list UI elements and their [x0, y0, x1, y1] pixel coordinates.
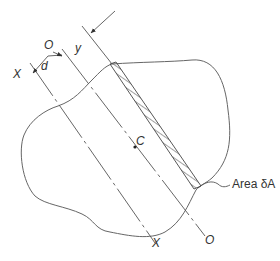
label-axis-o-bottom: O	[205, 233, 214, 247]
label-centroid: C	[136, 134, 145, 148]
y-extension-line	[82, 26, 112, 64]
axis-x-line	[30, 63, 155, 243]
label-axis-o-top: O	[44, 38, 53, 52]
area-element-strip	[110, 62, 201, 189]
axis-o-line	[62, 49, 205, 236]
label-area-element: Area δA	[232, 177, 275, 191]
y-dimension-arrow	[91, 11, 115, 33]
label-distance-d: d	[41, 59, 48, 73]
label-distance-y: y	[74, 41, 82, 55]
label-axis-x-bottom: X	[151, 236, 161, 250]
diagram-canvas: X X O O d y C Area δA	[0, 0, 280, 261]
area-leader-line	[198, 182, 230, 188]
label-axis-x-top: X	[12, 67, 22, 81]
